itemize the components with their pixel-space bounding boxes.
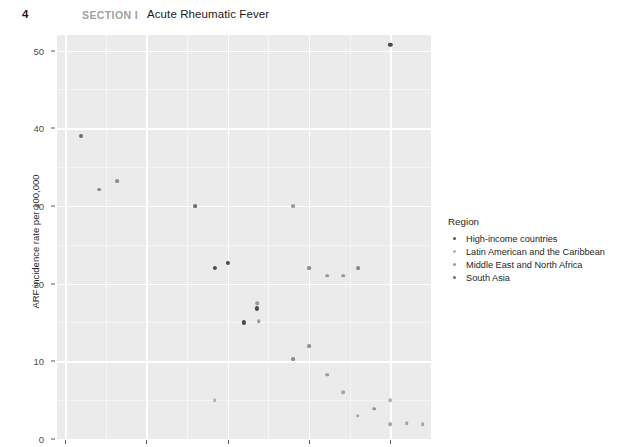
legend-key-icon <box>448 237 461 240</box>
page-header: 4 SECTION I Acute Rheumatic Fever <box>0 0 619 30</box>
y-tick-mark <box>51 205 55 206</box>
y-tick-mark <box>51 361 55 362</box>
legend-item-0[interactable]: High-income countries <box>448 232 616 245</box>
x-tick-mark <box>309 440 310 444</box>
legend-item-label: Middle East and North Africa <box>466 260 582 270</box>
y-tick-mark <box>51 439 55 440</box>
legend-items: High-income countriesLatin American and … <box>448 232 616 284</box>
y-axis-title: ARF incidence rate per 100,000 <box>30 127 41 357</box>
x-tick-mark <box>146 440 147 444</box>
legend-item-3[interactable]: South Asia <box>448 271 616 284</box>
legend-dot-icon <box>453 276 456 279</box>
legend-item-2[interactable]: Middle East and North Africa <box>448 258 616 271</box>
x-tick-mark <box>65 440 66 444</box>
legend-item-label: High-income countries <box>466 234 557 244</box>
y-tick-mark <box>51 128 55 129</box>
legend-dot-icon <box>453 250 456 253</box>
legend: Region High-income countriesLatin Americ… <box>448 216 616 284</box>
y-tick-mark <box>51 283 55 284</box>
legend-key-icon <box>448 263 461 266</box>
legend-title: Region <box>448 216 616 227</box>
section-label: SECTION I <box>82 9 138 21</box>
legend-item-1[interactable]: Latin American and the Caribbean <box>448 245 616 258</box>
y-tick-mark <box>51 50 55 51</box>
chapter-title: Acute Rheumatic Fever <box>147 8 269 20</box>
legend-dot-icon <box>453 263 456 266</box>
legend-item-label: Latin American and the Caribbean <box>466 247 605 257</box>
legend-key-icon <box>448 250 461 253</box>
legend-dot-icon <box>453 237 456 240</box>
x-tick-mark <box>228 440 229 444</box>
scatter-plot-figure: 01020304050 19701975198019851990 ARF inc… <box>0 28 619 447</box>
x-tick-mark <box>390 440 391 444</box>
legend-item-label: South Asia <box>466 273 510 283</box>
page-number: 4 <box>22 8 28 20</box>
legend-key-icon <box>448 276 461 279</box>
